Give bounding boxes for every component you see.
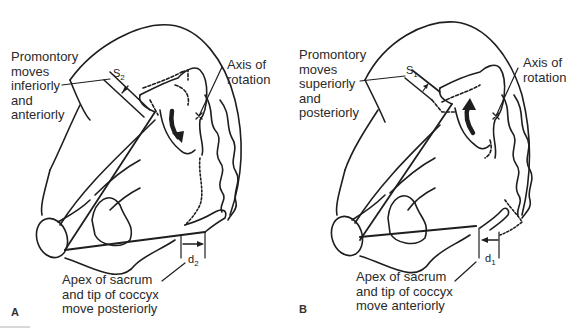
promontory-label-b: Promontory moves superiorly and posterio… (299, 48, 366, 121)
panel-letter-a: A (11, 306, 19, 318)
apex-label-a: Apex of sacrum and tip of coccyx move po… (62, 273, 159, 317)
axis-of-rotation-label-a: Axis of rotation (227, 58, 270, 87)
d2-symbol: d2 (188, 253, 199, 268)
axis-of-rotation-label-b: Axis of rotation (523, 56, 566, 85)
caption-rule (0, 326, 30, 328)
panel-b: Promontory moves superiorly and posterio… (290, 0, 579, 320)
panel-letter-b: B (299, 303, 307, 315)
apex-label-b: Apex of sacrum and tip of coccyx move an… (356, 270, 453, 314)
d1-symbol: d1 (485, 252, 496, 267)
panel-a: Promontory moves inferiorly and anterior… (0, 0, 290, 320)
promontory-label-a: Promontory moves inferiorly and anterior… (11, 50, 78, 123)
s1-symbol: S1 (406, 64, 418, 79)
s2-symbol: S2 (113, 67, 125, 82)
